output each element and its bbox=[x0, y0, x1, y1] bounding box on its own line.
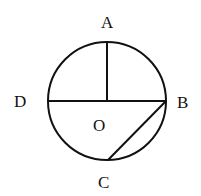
label-o: O bbox=[93, 116, 105, 135]
label-a: A bbox=[101, 13, 114, 32]
geometry-diagram: A D B O C bbox=[0, 0, 201, 196]
label-d: D bbox=[14, 92, 26, 111]
label-c: C bbox=[98, 173, 109, 192]
label-b: B bbox=[177, 93, 188, 112]
